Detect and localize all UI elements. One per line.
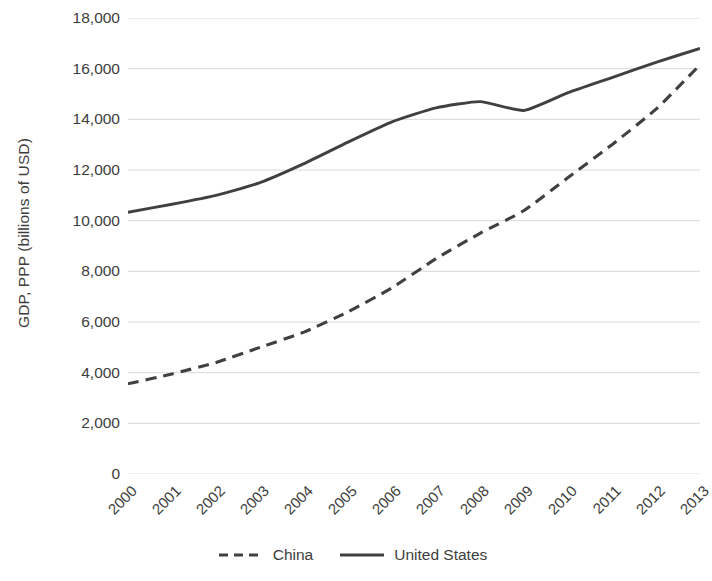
- legend-item-united-states[interactable]: United States: [339, 546, 487, 564]
- legend-label: United States: [394, 546, 487, 564]
- legend-label: China: [273, 546, 314, 564]
- legend-swatch-solid: [339, 549, 385, 561]
- chart-legend: ChinaUnited States: [0, 546, 705, 564]
- legend-item-china[interactable]: China: [218, 546, 314, 564]
- legend-swatch-dashed: [218, 549, 264, 561]
